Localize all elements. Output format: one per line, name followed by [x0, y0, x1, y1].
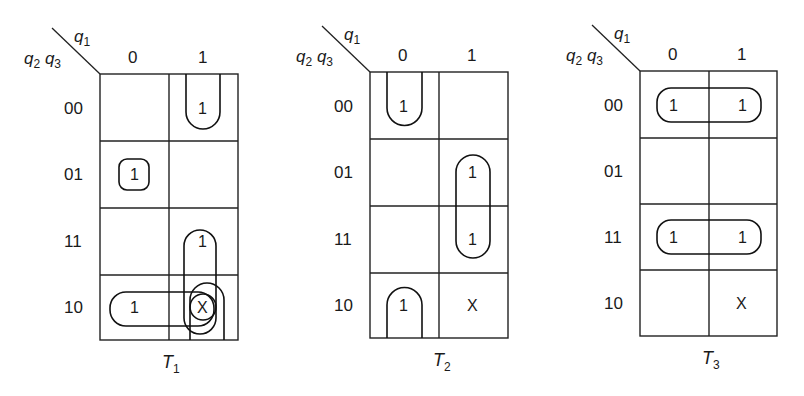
cell: 1	[468, 164, 477, 181]
col-var-label: q1	[614, 24, 630, 46]
row-header-10: 10	[334, 296, 353, 315]
col-header-1: 1	[198, 48, 207, 67]
kmap-t1: q1 q2 q3 0 1 00 01 11 10 1 1 1 1 X T1	[24, 27, 238, 376]
cell: 1	[738, 97, 747, 114]
cell: 1	[669, 97, 678, 114]
row-header-01: 01	[604, 162, 623, 181]
cell: 1	[738, 229, 747, 246]
map-title: T3	[702, 348, 720, 372]
row-header-11: 11	[64, 232, 82, 251]
row-header-10: 10	[64, 298, 83, 317]
col-var-label: q1	[74, 27, 90, 49]
row-header-00: 00	[604, 96, 623, 115]
cell: 1	[198, 233, 207, 250]
row-header-00: 00	[334, 97, 353, 116]
row-var-label: q2 q3	[296, 47, 333, 69]
kmap-grid	[100, 74, 238, 340]
kmap-grid	[640, 71, 777, 336]
col-header-0: 0	[668, 45, 677, 64]
cell: 1	[669, 229, 678, 246]
kmap-t2: q1 q2 q3 0 1 00 01 11 10 1 1 1 1 X T2	[296, 25, 508, 374]
map-title: T2	[433, 350, 451, 374]
row-header-10: 10	[604, 294, 623, 313]
kmap-t3: q1 q2 q3 0 1 00 01 11 10 1 1 1 1 X T3	[566, 24, 777, 372]
cell: 1	[399, 98, 408, 115]
cell: 1	[130, 166, 139, 183]
cell: 1	[399, 297, 408, 314]
cell: X	[197, 299, 208, 316]
cell: 1	[130, 299, 139, 316]
map-title: T1	[162, 352, 180, 376]
col-header-1: 1	[467, 46, 476, 65]
col-header-0: 0	[398, 46, 407, 65]
row-header-01: 01	[64, 165, 83, 184]
row-var-label: q2 q3	[566, 46, 603, 68]
row-header-00: 00	[64, 99, 83, 118]
cell: 1	[198, 100, 207, 117]
row-header-11: 11	[334, 230, 352, 249]
row-header-11: 11	[604, 228, 622, 247]
cell: 1	[468, 231, 477, 248]
col-header-1: 1	[737, 45, 746, 64]
cell: X	[736, 295, 747, 312]
cell: X	[467, 297, 478, 314]
row-header-01: 01	[334, 163, 353, 182]
kmap-canvas: q1 q2 q3 0 1 00 01 11 10 1 1 1 1 X T1	[0, 0, 804, 396]
kmap-grid	[370, 72, 508, 338]
col-header-0: 0	[128, 48, 137, 67]
col-var-label: q1	[344, 25, 360, 47]
row-var-label: q2 q3	[24, 49, 61, 71]
